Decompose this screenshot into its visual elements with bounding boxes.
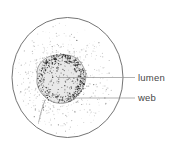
stipple-dot [80,82,81,83]
stipple-dot [91,111,92,112]
stipple-dot [77,92,78,93]
stipple-dot [57,62,58,63]
stipple-dot [83,78,84,79]
stipple-dot [69,82,70,83]
stipple-dot [87,100,88,101]
stipple-dot [78,88,79,89]
stipple-dot [77,102,78,103]
stipple-dot [48,112,49,113]
stipple-dot [73,69,74,70]
stipple-dot [75,59,76,60]
stipple-dot [71,120,72,121]
stipple-dot [46,62,47,63]
stipple-dot [68,56,69,57]
stipple-dot [86,51,87,52]
stipple-dot [30,81,31,82]
stipple-dot [91,122,92,123]
stipple-dot [43,71,44,72]
stipple-dot [31,71,32,72]
stipple-dot [76,62,77,63]
stipple-dot [64,61,65,62]
stipple-dot [80,84,81,85]
stipple-dot [102,56,103,57]
stipple-dot [38,73,39,74]
stipple-dot [79,70,80,71]
stipple-dot [29,100,30,101]
stipple-dot [84,76,85,77]
stipple-dot [79,64,80,65]
stipple-dot [53,38,54,39]
stipple-dot [50,89,51,90]
stipple-dot [42,77,43,78]
stipple-dot [35,70,36,71]
stipple-dot [93,93,94,94]
stipple-dot [83,94,84,95]
stipple-dot [41,81,42,82]
stipple-dot [62,97,63,98]
stipple-dot [45,94,46,95]
stipple-dot [92,50,93,51]
stipple-dot [75,63,76,64]
stipple-dot [57,66,58,67]
stipple-dot [53,82,54,83]
stipple-dot [93,112,94,113]
stipple-dot [68,61,69,62]
stipple-dot [42,65,43,66]
stipple-dot [43,47,44,48]
stipple-dot [35,108,36,109]
stipple-dot [82,68,83,69]
stipple-dot [42,89,43,90]
stipple-dot [80,88,81,89]
stipple-dot [80,85,81,86]
stipple-dot [46,112,47,113]
stipple-dot [20,91,21,92]
stipple-dot [77,32,78,33]
stipple-dot [80,56,81,57]
stipple-dot [28,71,29,72]
stipple-dot [79,68,80,69]
stipple-dot [36,59,37,60]
stipple-dot [58,64,59,65]
stipple-dot [25,62,26,63]
stipple-dot [85,70,86,71]
stipple-dot [49,62,50,63]
stipple-dot [52,75,53,76]
stipple-dot [76,102,77,103]
stipple-dot [25,99,26,100]
stipple-dot [90,83,91,84]
stipple-dot [91,56,92,57]
stipple-dot [80,64,81,65]
stipple-dot [82,70,83,71]
stipple-dot [34,90,35,91]
stipple-dot [40,61,41,62]
stipple-dot [86,112,87,113]
stipple-dot [37,62,38,63]
stipple-dot [51,56,52,57]
stipple-dot [23,100,24,101]
stipple-dot [74,96,75,97]
stipple-dot [71,54,72,55]
stipple-dot [66,58,67,59]
stipple-dot [76,68,77,69]
stipple-dot [68,93,69,94]
stipple-dot [51,79,52,80]
stipple-dot [99,111,100,112]
stipple-dot [55,57,56,58]
stipple-dot [44,77,45,78]
stipple-dot [68,98,69,99]
stipple-dot [56,96,57,97]
stipple-dot [65,130,66,131]
stipple-dot [57,81,58,82]
stipple-dot [59,47,60,48]
stipple-dot [58,55,59,56]
stipple-dot [84,79,85,80]
stipple-dot [42,67,43,68]
stipple-dot [96,47,97,48]
stipple-dot [57,67,58,68]
stipple-dot [100,66,101,67]
stipple-dot [51,124,52,125]
stipple-dot [51,101,52,102]
stipple-dot [96,84,97,85]
stipple-dot [94,113,95,114]
stipple-dot [68,44,69,45]
